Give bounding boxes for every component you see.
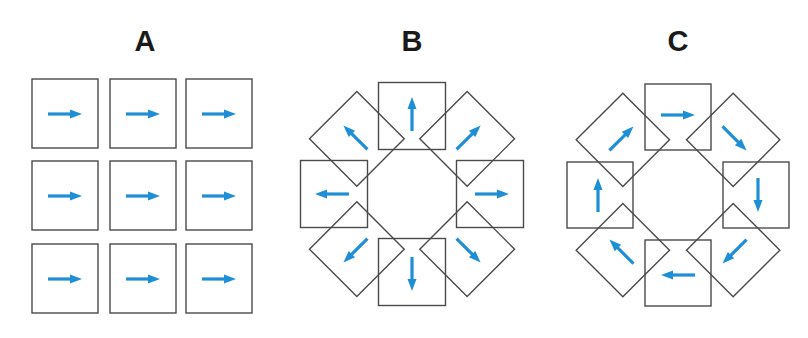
receptive-field-square: [686, 203, 779, 296]
receptive-field-square: [723, 162, 789, 228]
motion-arrow-icon: [202, 110, 236, 119]
motion-arrow-icon: [453, 122, 483, 152]
motion-arrow-icon: [48, 110, 82, 119]
motion-arrow-icon: [340, 122, 370, 152]
motion-arrow-icon: [594, 178, 603, 212]
receptive-field-square: [686, 93, 779, 186]
receptive-field-square: [576, 93, 669, 186]
motion-arrow-icon: [661, 111, 695, 120]
motion-arrow-icon: [719, 123, 749, 153]
panel-b-expansion-ring: [301, 83, 524, 306]
motion-arrow-icon: [606, 236, 636, 266]
motion-arrow-icon: [475, 190, 509, 199]
panel-c-rotation-ring: [567, 84, 789, 306]
motion-arrow-icon: [408, 97, 417, 131]
motion-field-diagram: [0, 0, 808, 338]
motion-arrow-icon: [126, 275, 160, 284]
motion-arrow-icon: [202, 192, 236, 201]
motion-arrow-icon: [126, 110, 160, 119]
motion-arrow-icon: [453, 235, 483, 265]
motion-arrow-icon: [202, 275, 236, 284]
motion-arrow-icon: [606, 123, 636, 153]
receptive-field-square: [576, 203, 669, 296]
motion-arrow-icon: [126, 192, 160, 201]
receptive-field-square: [567, 162, 633, 228]
panel-a-translation-grid: [32, 79, 252, 313]
receptive-field-square: [645, 240, 711, 306]
receptive-field-square: [645, 84, 711, 150]
motion-arrow-icon: [719, 236, 749, 266]
motion-arrow-icon: [408, 257, 417, 291]
motion-arrow-icon: [340, 235, 370, 265]
motion-arrow-icon: [315, 190, 349, 199]
motion-arrow-icon: [48, 192, 82, 201]
motion-arrow-icon: [754, 178, 763, 212]
motion-arrow-icon: [48, 275, 82, 284]
motion-arrow-icon: [661, 271, 695, 280]
